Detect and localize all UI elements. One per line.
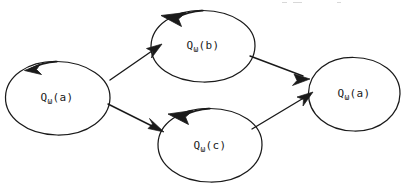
- edge-top-to-right: [250, 56, 310, 86]
- node-top-label: Qω(b): [187, 40, 220, 54]
- node-bottom-label: Qω(c): [194, 140, 227, 154]
- node-right-label-base: Q: [338, 87, 345, 100]
- edge-bottom-to-right: [252, 92, 313, 129]
- node-left-label: Qω(a): [41, 92, 74, 106]
- edge-left-to-bottom-line: [108, 104, 158, 129]
- node-right-label-arg: (a): [349, 87, 370, 100]
- node-bottom-label-arg: (c): [205, 139, 226, 152]
- edge-top-to-right-line: [250, 56, 303, 76]
- scan-speck: [337, 2, 341, 3]
- node-left-label-arg: (a): [52, 91, 73, 104]
- node-top-label-arg: (b): [198, 39, 219, 52]
- diagram-canvas: Qω(a) Qω(b) Qω(c) Qω(a): [0, 0, 410, 187]
- edge-left-to-top-line: [110, 48, 157, 81]
- edge-left-to-top: [110, 44, 162, 80]
- scan-speck: [282, 2, 287, 3]
- edge-bottom-to-right-line: [252, 96, 307, 129]
- scan-speck: [293, 2, 302, 3]
- node-left-label-base: Q: [41, 91, 48, 104]
- node-bottom-label-base: Q: [194, 139, 201, 152]
- node-right-label: Qω(a): [338, 88, 371, 102]
- edge-left-to-bottom: [108, 104, 164, 132]
- node-top-label-base: Q: [187, 39, 194, 52]
